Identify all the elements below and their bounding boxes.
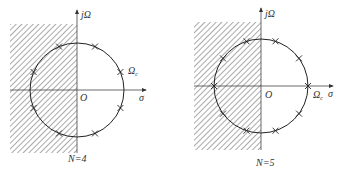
pole-diagram-n5: jΩ σ O Ωc N=5 [194, 8, 334, 168]
j-omega-label: jΩ [263, 8, 275, 19]
origin-label: O [80, 92, 87, 103]
left-half-plane-shading [10, 24, 77, 153]
cutoff-label: Ωc [128, 65, 138, 77]
sigma-label: σ [139, 92, 145, 103]
pole-diagram-n4: jΩ σ O Ωc N=4 [10, 9, 146, 164]
j-omega-label: jΩ [79, 9, 91, 20]
sigma-label: σ [328, 88, 334, 99]
caption-n4: N=4 [67, 153, 86, 164]
cutoff-label: Ωc [313, 89, 323, 101]
caption-n5: N=5 [255, 157, 274, 168]
origin-label: O [265, 89, 272, 100]
butterworth-pole-diagrams: jΩ σ O Ωc N=4 jΩ σ O Ωc N=5 [0, 0, 340, 173]
